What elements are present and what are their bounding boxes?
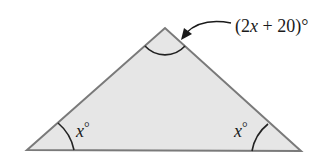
apex-pointer-arrow: [186, 22, 231, 33]
apex-angle-label: (2x + 20)°: [235, 16, 308, 37]
triangle-diagram: (2x + 20)° x° x°: [0, 0, 330, 164]
